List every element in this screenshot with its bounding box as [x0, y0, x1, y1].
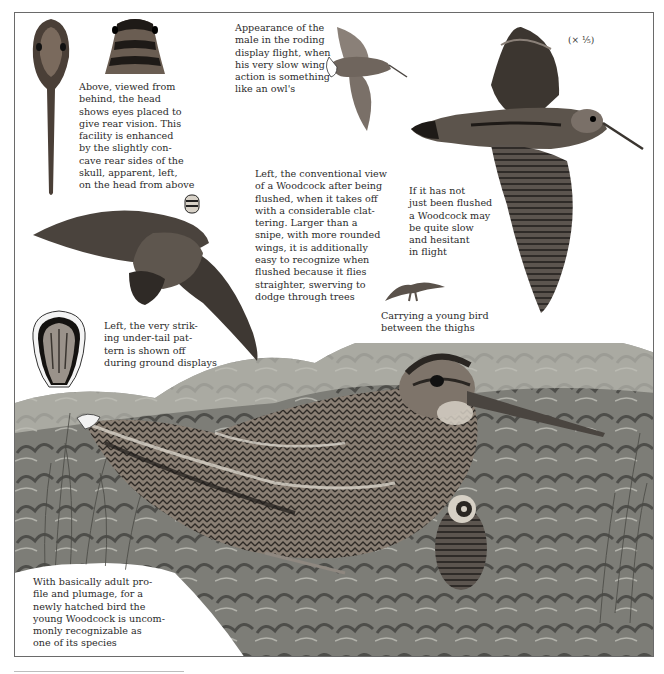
carrying-young-woodcock-illustration [385, 275, 445, 305]
scale-note: (× ⅕) [568, 35, 594, 45]
caption-slow-flight: If it has not just been flushed a Woodco… [409, 185, 492, 259]
caption-young-bird: With basically adult pro- file and pluma… [33, 576, 165, 650]
caption-flushed-view: Left, the conventional view of a Woodcoc… [255, 168, 387, 303]
roding-flight-woodcock-illustration [327, 27, 407, 132]
plate-frame: Above, viewed from behind, the head show… [14, 12, 654, 657]
caption-carrying-young: Carrying a young bird between the thighs [381, 310, 489, 335]
head-from-above-illustration [29, 17, 73, 197]
head-from-behind-illustration [105, 16, 165, 78]
caption-roding-flight: Appearance of the male in the roding dis… [235, 22, 331, 96]
caption-head-views: Above, viewed from behind, the head show… [79, 81, 194, 192]
bottom-rule [14, 671, 184, 672]
slow-flight-woodcock-illustration [411, 25, 641, 315]
caption-under-tail: Left, the very strik- ing under-tail pat… [104, 320, 217, 369]
under-tail-pattern-illustration [29, 309, 89, 389]
